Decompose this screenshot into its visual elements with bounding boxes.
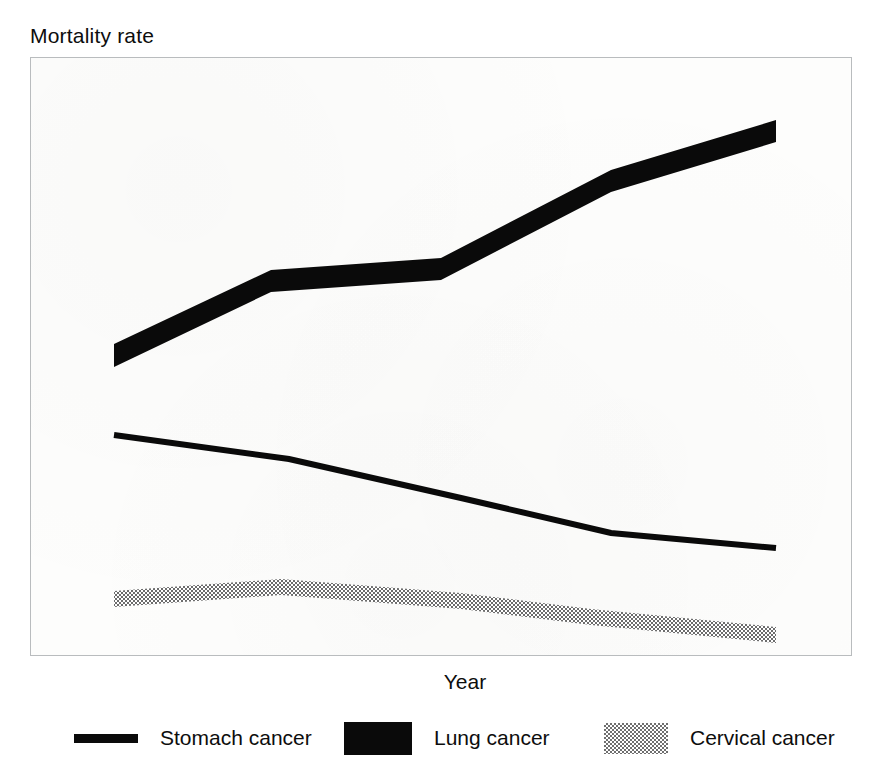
legend-label-lung-cancer: Lung cancer (434, 726, 550, 750)
legend-item-cervical-cancer[interactable]: Cervical cancer (604, 714, 835, 762)
chart-legend: Stomach cancer Lung cancer Cervical canc… (0, 714, 882, 762)
series-band-lung-cancer (114, 120, 776, 367)
legend-label-cervical-cancer: Cervical cancer (690, 726, 835, 750)
legend-swatch-line-icon (74, 734, 138, 743)
chart-figure: Mortality rate Year Stomach cancer (0, 0, 882, 783)
legend-item-stomach-cancer[interactable]: Stomach cancer (74, 714, 312, 762)
plot-svg (31, 58, 852, 656)
series-line-stomach-cancer (114, 435, 776, 548)
legend-item-lung-cancer[interactable]: Lung cancer (344, 714, 550, 762)
y-axis-label: Mortality rate (30, 24, 154, 48)
legend-label-stomach-cancer: Stomach cancer (160, 726, 312, 750)
legend-swatch-solid-block-icon (344, 722, 412, 755)
x-axis-label: Year (444, 670, 486, 693)
legend-swatch-dither-block-icon (604, 723, 668, 754)
series-band-cervical-cancer (114, 579, 776, 643)
x-axis-label-row: Year (0, 670, 882, 694)
plot-area (30, 57, 852, 656)
